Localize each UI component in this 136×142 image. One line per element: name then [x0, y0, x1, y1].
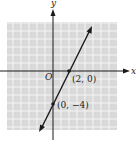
point-label-y-intercept: (0, −4): [57, 100, 89, 110]
point-label-x-intercept: (2, 0): [72, 74, 96, 84]
point-y-intercept: [51, 102, 55, 106]
y-axis-arrow-icon: [51, 9, 56, 16]
point-x-intercept: [67, 69, 71, 73]
coordinate-graph: x y O (2, 0) (0, −4): [0, 0, 136, 142]
y-axis-label: y: [50, 0, 57, 8]
origin-label: O: [45, 72, 53, 82]
x-axis-label: x: [131, 66, 136, 76]
x-axis-arrow-icon: [123, 69, 130, 74]
